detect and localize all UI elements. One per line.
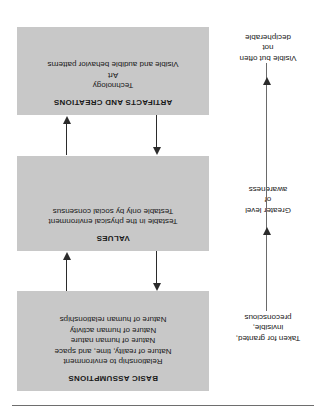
caption-line: Greater level <box>214 204 322 215</box>
level-line: Testable in the physical environment <box>27 216 199 227</box>
caption-line: Taken for granted, <box>214 332 322 343</box>
level-line: Nature of human relationships <box>27 313 199 324</box>
arrow-up-icon <box>153 147 161 155</box>
caption-line: Visible but often <box>214 52 322 63</box>
level-line: Nature of human activity <box>27 324 199 335</box>
caption-line: of <box>214 194 322 205</box>
level-line: Nature of reality, time, and space <box>27 345 199 356</box>
culture-levels-diagram: BASIC ASSUMPTIONS Relationship to enviro… <box>0 0 322 411</box>
level-line: Technology <box>27 80 199 91</box>
level-box-artifacts-and-creations: ARTIFACTS AND CREATIONS Technology Art V… <box>17 27 209 115</box>
level-line: Nature of human nature <box>27 335 199 346</box>
connector-basic-to-values-line <box>66 259 67 291</box>
arrow-down-icon <box>263 77 271 85</box>
level-line: Relationship to environment <box>27 356 199 367</box>
arrow-down-icon <box>263 227 271 235</box>
level-title-basic-assumptions: BASIC ASSUMPTIONS <box>27 373 199 382</box>
level-line: Visible and audible behavior patterns <box>27 59 199 70</box>
arrow-down-icon <box>63 252 71 260</box>
level-title-artifacts-and-creations: ARTIFACTS AND CREATIONS <box>27 97 199 106</box>
level-box-basic-assumptions: BASIC ASSUMPTIONS Relationship to enviro… <box>17 291 209 391</box>
header-divider-rule <box>12 405 314 406</box>
caption-line: awareness <box>214 183 322 194</box>
level-line: Art <box>27 69 199 80</box>
caption-line: preconscious <box>214 311 322 322</box>
caption-line: not <box>214 42 322 53</box>
arrow-up-icon <box>153 283 161 291</box>
caption-basic-assumptions: Taken for granted, invisible, preconscio… <box>214 311 322 343</box>
level-box-values: VALUES Testable in the physical environm… <box>17 156 209 251</box>
caption-line: decipherable <box>214 31 322 42</box>
caption-values: Greater level of awareness <box>214 183 322 215</box>
awareness-axis-line <box>266 63 267 311</box>
connector-values-to-artifacts-line <box>66 123 67 155</box>
level-title-values: VALUES <box>27 233 199 242</box>
level-line: Testable only by social consensus <box>27 205 199 216</box>
caption-artifacts-and-creations: Visible but often not decipherable <box>214 31 322 63</box>
caption-line: invisible, <box>214 322 322 333</box>
arrow-down-icon <box>63 116 71 124</box>
